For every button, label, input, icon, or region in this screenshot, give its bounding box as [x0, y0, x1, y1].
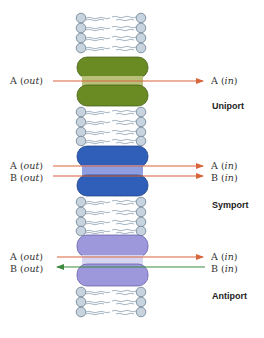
symport-protein	[77, 146, 148, 196]
antiport-a-out-label: A (out)	[10, 252, 43, 262]
antiport-a-in-label: A (in)	[211, 252, 237, 262]
antiport-title: Antiport	[212, 291, 247, 301]
symport-title: Symport	[212, 200, 249, 210]
antiport-b-in-label: B (in)	[211, 264, 238, 274]
symport-a-in-label: A (in)	[211, 161, 237, 171]
uniport-a-out-label: A (out)	[10, 76, 43, 86]
uniport-title: Uniport	[212, 101, 244, 111]
antiport-b-out-label: B (out)	[10, 264, 43, 274]
lipid-bilayer-bottom	[76, 287, 146, 317]
lipid-bilayer-middle-2	[76, 197, 146, 236]
symport-b-out-label: B (out)	[10, 173, 43, 183]
symport-a-out-label: A (out)	[10, 161, 43, 171]
lipid-bilayer-top	[76, 13, 146, 53]
lipid-bilayer-middle-1	[76, 107, 146, 146]
symport-b-in-label: B (in)	[211, 173, 238, 183]
antiport-protein	[77, 235, 148, 286]
uniport-a-in-label: A (in)	[211, 76, 237, 86]
